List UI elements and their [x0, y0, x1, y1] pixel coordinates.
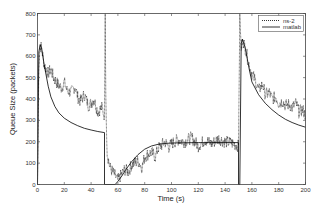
y-tick-label: 300 [25, 117, 36, 123]
x-tick-label: 140 [220, 187, 231, 193]
y-tick-label: 100 [25, 160, 36, 166]
x-axis-ticks: 020406080100120140160180200 [36, 14, 311, 193]
y-axis-ticks: 0100200300400500600700800 [25, 11, 305, 188]
legend-label-matlab: matlab [283, 24, 302, 30]
x-tick-label: 60 [115, 187, 122, 193]
legend-label-ns2: ns-2 [283, 18, 295, 24]
x-tick-label: 160 [247, 187, 258, 193]
y-tick-label: 600 [25, 53, 36, 59]
x-tick-label: 200 [300, 187, 311, 193]
x-tick-label: 20 [61, 187, 68, 193]
y-tick-label: 700 [25, 32, 36, 38]
y-tick-label: 500 [25, 75, 36, 81]
x-axis-label: Time (s) [157, 194, 185, 203]
y-tick-label: 800 [25, 11, 36, 17]
y-tick-label: 400 [25, 96, 36, 102]
y-axis-label: Queue Size (packets) [8, 62, 17, 135]
y-tick-label: 200 [25, 139, 36, 145]
x-tick-label: 180 [274, 187, 285, 193]
series-matlab-line [38, 39, 306, 184]
plot-area [38, 14, 306, 185]
x-tick-label: 40 [88, 187, 95, 193]
x-tick-label: 120 [193, 187, 204, 193]
queue-size-chart: 020406080100120140160180200 010020030040… [0, 0, 325, 209]
series-ns2-line [38, 14, 306, 185]
x-tick-label: 80 [141, 187, 148, 193]
x-tick-label: 100 [166, 187, 177, 193]
x-tick-label: 0 [36, 187, 40, 193]
legend: ns-2 matlab [259, 16, 304, 32]
